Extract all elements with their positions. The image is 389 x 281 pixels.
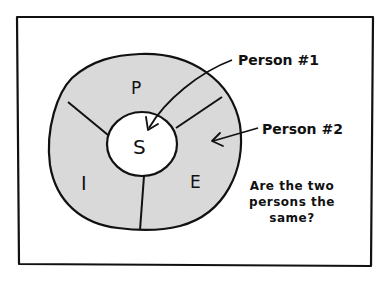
question-line-2: persons the [236, 194, 348, 210]
diagram-canvas: S P E I Person #1 Person #2 [0, 0, 389, 281]
question-note: Are the two persons the same? [236, 178, 348, 226]
callout-person-2: Person #2 [262, 121, 343, 137]
question-line-3: same? [236, 210, 348, 226]
question-line-1: Are the two [236, 178, 348, 194]
segment-label-i: I [81, 172, 87, 194]
core-label: S [133, 135, 146, 159]
callout-person-1: Person #1 [238, 52, 319, 68]
segment-label-e: E [190, 172, 201, 192]
segment-label-p: P [131, 78, 141, 98]
